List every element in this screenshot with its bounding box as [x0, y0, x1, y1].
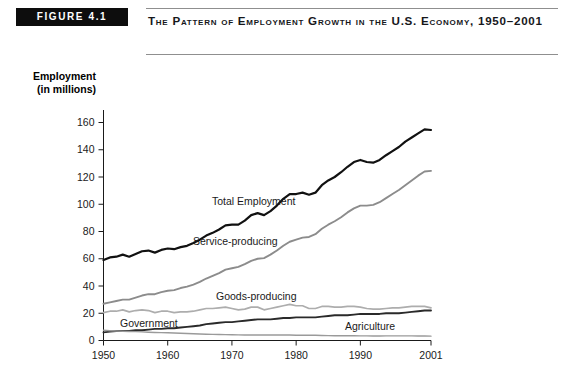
figure-number-badge: FIGURE 4.1: [16, 8, 128, 26]
y-tick-label: 120: [77, 171, 95, 183]
y-tick-label: 40: [83, 280, 95, 292]
annotation-total-employment: Total Employment: [212, 195, 296, 207]
x-tick-label: 1950: [92, 349, 116, 361]
chart-area: Employment (in millions) 020406080100120…: [0, 62, 573, 380]
series-paths-group: [104, 129, 432, 336]
x-tick-label: 2001: [419, 349, 443, 361]
series-line-goods-producing: [104, 304, 432, 312]
figure-header: FIGURE 4.1 The Pattern of Employment Gro…: [0, 0, 573, 62]
y-tick-label: 60: [83, 252, 95, 264]
employment-growth-line-chart: 020406080100120140160 195019601970198019…: [0, 62, 573, 380]
header-rule-bottom: [146, 54, 558, 55]
y-tick-label: 80: [83, 225, 95, 237]
x-tick-label: 1990: [349, 349, 373, 361]
y-axis-ticks: 020406080100120140160: [77, 116, 104, 346]
x-axis-ticks: 195019601970198019902001: [92, 341, 443, 361]
x-tick-label: 1960: [156, 349, 180, 361]
annotation-agriculture: Agriculture: [345, 320, 395, 332]
figure-title: The Pattern of Employment Growth in the …: [148, 12, 552, 29]
annotation-government: Government: [120, 317, 178, 329]
annotation-goods-producing: Goods-producing: [216, 290, 297, 302]
header-rule-top: [146, 8, 558, 9]
y-tick-label: 160: [77, 116, 95, 128]
y-tick-label: 0: [89, 334, 95, 346]
y-tick-label: 20: [83, 307, 95, 319]
y-tick-label: 140: [77, 143, 95, 155]
y-tick-label: 100: [77, 198, 95, 210]
annotation-service-producing: Service-producing: [193, 235, 278, 247]
x-tick-label: 1980: [284, 349, 308, 361]
x-tick-label: 1970: [220, 349, 244, 361]
